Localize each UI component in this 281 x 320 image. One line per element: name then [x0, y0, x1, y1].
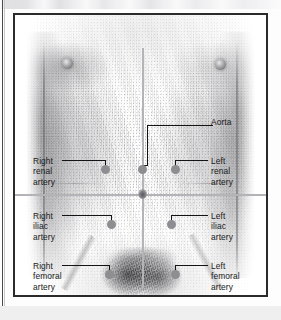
callout-label-right-renal-artery: Right renal artery — [33, 156, 55, 187]
page-left-margin-rule — [2, 0, 3, 320]
callout-label-aorta: Aorta — [211, 117, 232, 127]
marker-dot-aorta[interactable] — [138, 165, 147, 174]
annotation-layer: AortaRight renal arteryLeft renal artery… — [15, 15, 266, 295]
leader-line-right-iliac-artery — [62, 215, 111, 216]
marker-dot-right-renal-artery[interactable] — [101, 165, 110, 174]
scan-artifact-strip — [0, 0, 281, 9]
marker-dot-left-femoral-artery[interactable] — [171, 270, 180, 279]
marker-dot-left-iliac-artery[interactable] — [167, 220, 176, 229]
callout-label-left-renal-artery: Left renal artery — [211, 156, 233, 187]
leader-line-aorta — [147, 125, 148, 165]
marker-dot-right-femoral-artery[interactable] — [105, 270, 114, 279]
callout-label-left-femoral-artery: Left femoral artery — [211, 261, 240, 292]
leader-line-right-femoral-artery — [62, 265, 109, 266]
leader-line-aorta — [147, 125, 213, 126]
callout-label-right-femoral-artery: Right femoral artery — [33, 261, 62, 292]
marker-dot-left-renal-artery[interactable] — [171, 165, 180, 174]
figure-root: AortaRight renal arteryLeft renal artery… — [0, 0, 281, 320]
page-bottom-band — [0, 306, 281, 320]
callout-label-left-iliac-artery: Left iliac artery — [211, 211, 233, 242]
illustration-canvas: AortaRight renal arteryLeft renal artery… — [15, 15, 266, 295]
leader-line-left-iliac-artery — [171, 215, 208, 216]
callout-label-right-iliac-artery: Right iliac artery — [33, 211, 55, 242]
page-left-margin-rule-secondary — [4, 0, 5, 320]
leader-line-right-renal-artery — [62, 160, 105, 161]
leader-line-left-renal-artery — [175, 160, 208, 161]
leader-line-left-femoral-artery — [175, 265, 208, 266]
illustration-frame: AortaRight renal arteryLeft renal artery… — [13, 13, 268, 297]
marker-dot-right-iliac-artery[interactable] — [107, 220, 116, 229]
